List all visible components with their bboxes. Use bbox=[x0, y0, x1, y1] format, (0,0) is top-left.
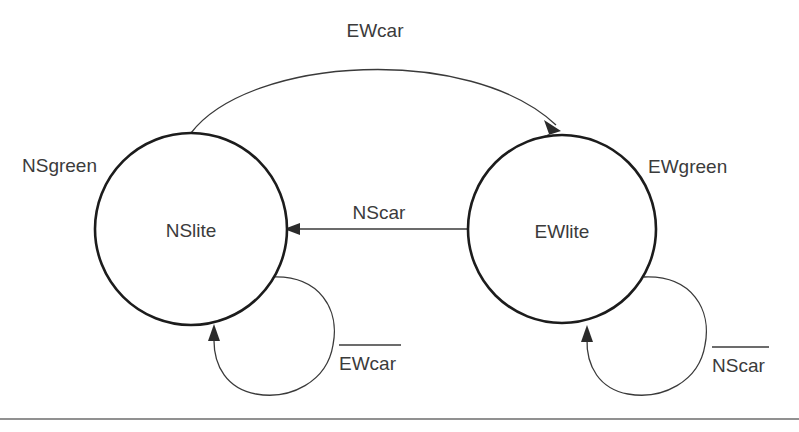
transition-ns-to-ew-path bbox=[191, 70, 556, 133]
transition-ns-self-loop-arrowhead bbox=[208, 324, 220, 341]
state-name-nslite: NSlite bbox=[166, 220, 217, 241]
state-diagram-svg: NSlite EWlite NSgreen EWgreen EWcar NSca… bbox=[0, 0, 799, 432]
state-output-label-ewgreen: EWgreen bbox=[648, 156, 727, 177]
state-diagram-canvas: NSlite EWlite NSgreen EWgreen EWcar NSca… bbox=[0, 0, 799, 432]
transition-label-ew-self: NScar bbox=[712, 347, 769, 376]
transition-label-ew-self-text: NScar bbox=[712, 355, 765, 376]
transition-ns-to-ew[interactable] bbox=[191, 70, 561, 138]
transition-label-ns-self: EWcar bbox=[339, 345, 401, 374]
transition-label-ew-to-ns: NScar bbox=[353, 202, 406, 223]
state-output-label-nsgreen: NSgreen bbox=[22, 155, 97, 176]
transition-ew-to-ns[interactable] bbox=[284, 223, 468, 235]
transition-ew-self-loop-arrowhead bbox=[581, 325, 593, 342]
transition-label-ns-to-ew: EWcar bbox=[347, 20, 405, 41]
transition-label-ns-self-text: EWcar bbox=[339, 353, 397, 374]
state-name-ewlite: EWlite bbox=[535, 221, 590, 242]
